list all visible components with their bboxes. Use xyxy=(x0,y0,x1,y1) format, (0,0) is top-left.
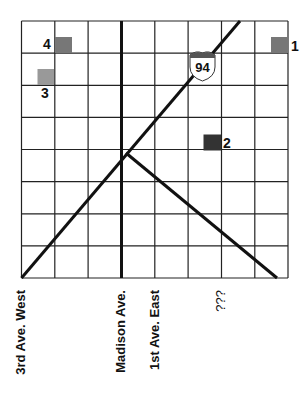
highway-shield-number: 94 xyxy=(190,61,215,74)
marker-4 xyxy=(55,37,72,53)
marker-label-2: 2 xyxy=(223,136,231,150)
street-label-unknown: ??? xyxy=(214,290,227,312)
marker-label-4: 4 xyxy=(43,37,51,51)
marker-label-3: 3 xyxy=(41,86,49,100)
marker-1 xyxy=(271,37,288,53)
street-label-1st-ave-east: 1st Ave. East xyxy=(148,290,161,370)
street-label-3rd-ave-west: 3rd Ave. West xyxy=(14,290,27,375)
street-label-madison-ave: Madison Ave. xyxy=(114,290,127,373)
marker-2 xyxy=(204,135,222,151)
marker-3 xyxy=(38,69,55,85)
marker-label-1: 1 xyxy=(291,39,299,53)
grid-lines xyxy=(22,21,289,278)
